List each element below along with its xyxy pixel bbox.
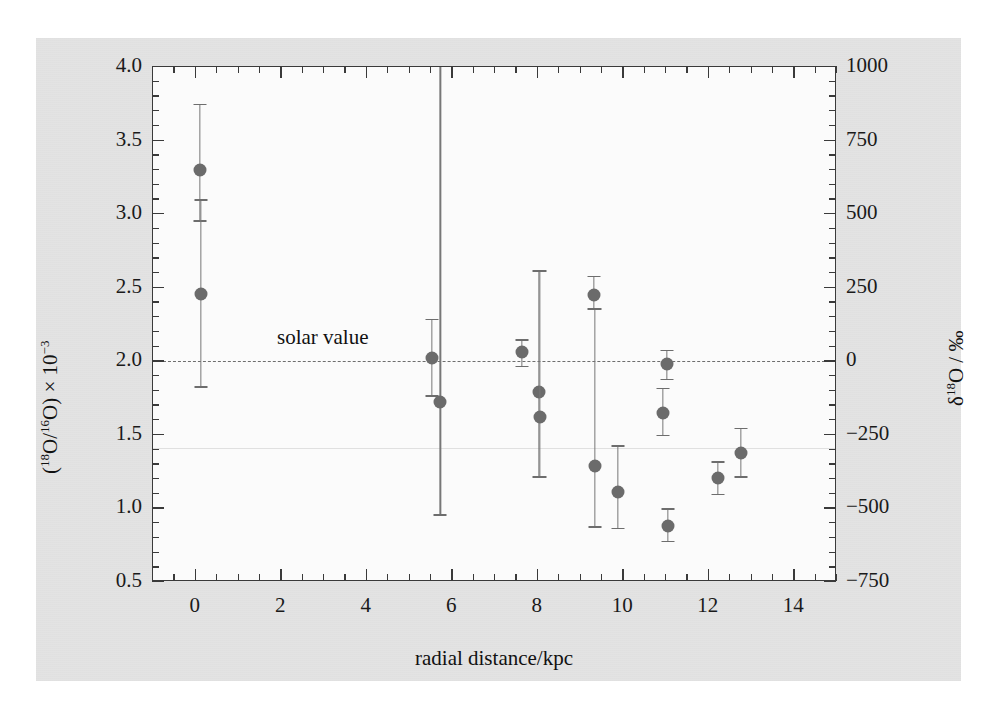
x-tick-top (537, 66, 538, 78)
y-tick-right (829, 566, 836, 567)
error-bar (594, 308, 595, 526)
x-tick-bottom (173, 574, 174, 581)
x-tick-top (665, 66, 666, 73)
y-tick-right (829, 228, 836, 229)
x-tick-top (815, 66, 816, 73)
error-bar-cap-upper (533, 270, 546, 272)
y-tick-left (152, 493, 159, 494)
x-tick-top (772, 66, 773, 73)
x-tick-bottom (793, 569, 794, 581)
error-bar-cap-upper (588, 276, 601, 278)
y-tick-right (829, 449, 836, 450)
x-tick-bottom (451, 569, 452, 581)
y-tick-left (152, 169, 159, 170)
x-tick-bottom (494, 574, 495, 581)
x-tick-label: 12 (668, 595, 748, 616)
y-tick-right (829, 110, 836, 111)
y-tick-left (152, 581, 164, 582)
y-tick-left (152, 213, 164, 214)
error-bar-cap-lower (589, 526, 602, 528)
y-tick-right (829, 81, 836, 82)
y-tick-right (829, 198, 836, 199)
y-tick-label-right: 1000 (846, 55, 940, 76)
x-tick-top (751, 66, 752, 73)
figure-scatter-plot: (18O/16O) × 10−3 δ18O / ‰ radial distanc… (0, 0, 994, 721)
x-tick-bottom (537, 569, 538, 581)
y-tick-left (152, 257, 159, 258)
x-axis-title: radial distance/kpc (354, 648, 634, 669)
data-point-marker (434, 396, 447, 409)
x-tick-bottom (729, 574, 730, 581)
y-axis-title-right-text: δ18O / ‰ (944, 330, 968, 405)
y-tick-right (824, 581, 836, 582)
data-point-marker (515, 346, 528, 359)
y-tick-label-left: 4.0 (48, 55, 142, 76)
x-tick-top (515, 66, 516, 73)
x-tick-bottom (195, 569, 196, 581)
y-tick-right (829, 463, 836, 464)
x-tick-top (644, 66, 645, 73)
x-tick-bottom (558, 574, 559, 581)
x-tick-top (366, 66, 367, 78)
error-bar-cap-lower (612, 528, 625, 530)
error-bar-cap-upper (515, 339, 528, 341)
y-tick-right (829, 522, 836, 523)
x-tick-bottom (259, 574, 260, 581)
y-tick-left (152, 537, 159, 538)
y-tick-label-left: 2.5 (48, 276, 142, 297)
error-bar (539, 270, 540, 476)
x-tick-top (323, 66, 324, 73)
y-tick-right (829, 493, 836, 494)
x-tick-bottom (836, 574, 837, 581)
y-tick-right (829, 272, 836, 273)
x-tick-top (601, 66, 602, 73)
x-tick-bottom (751, 574, 752, 581)
x-tick-bottom (473, 574, 474, 581)
y-tick-left (152, 228, 159, 229)
x-tick-top (302, 66, 303, 73)
error-bar-cap-upper (662, 508, 675, 510)
error-bar-cap-lower (194, 386, 207, 388)
data-point-marker (656, 406, 669, 419)
data-point-marker (588, 289, 601, 302)
y-tick-left (152, 552, 159, 553)
y-tick-left (152, 360, 164, 361)
data-point-marker (589, 459, 602, 472)
y-tick-right (829, 243, 836, 244)
y-tick-left (152, 331, 159, 332)
x-tick-bottom (708, 569, 709, 581)
error-bar-cap-upper (194, 199, 207, 201)
x-tick-top (387, 66, 388, 73)
x-tick-top (344, 66, 345, 73)
y-tick-left (152, 316, 159, 317)
x-tick-top (238, 66, 239, 73)
y-tick-label-right: −250 (846, 423, 940, 444)
plot-inner-clip: solar value (153, 67, 835, 580)
data-point-marker (533, 411, 546, 424)
y-tick-right (829, 257, 836, 258)
x-tick-bottom (216, 574, 217, 581)
y-tick-right (824, 360, 836, 361)
y-tick-right (829, 478, 836, 479)
x-tick-bottom (601, 574, 602, 581)
y-tick-right (824, 140, 836, 141)
solar-value-label: solar value (277, 325, 369, 350)
y-tick-left (152, 522, 159, 523)
x-tick-bottom (665, 574, 666, 581)
error-bar-cap-upper (734, 428, 747, 430)
x-tick-bottom (344, 574, 345, 581)
y-tick-right (829, 331, 836, 332)
x-tick-top (451, 66, 452, 78)
error-bar-cap-lower (656, 435, 669, 437)
x-tick-label: 6 (411, 595, 491, 616)
x-tick-top (686, 66, 687, 73)
y-tick-label-right: 750 (846, 129, 940, 150)
y-tick-left (152, 434, 164, 435)
y-tick-label-left: 0.5 (48, 570, 142, 591)
error-bar-cap-lower (662, 541, 675, 543)
error-bar-cap-upper (660, 350, 673, 352)
y-tick-label-left: 1.0 (48, 496, 142, 517)
y-tick-label-right: −500 (846, 496, 940, 517)
data-point-marker (734, 446, 747, 459)
x-tick-label: 8 (497, 595, 577, 616)
